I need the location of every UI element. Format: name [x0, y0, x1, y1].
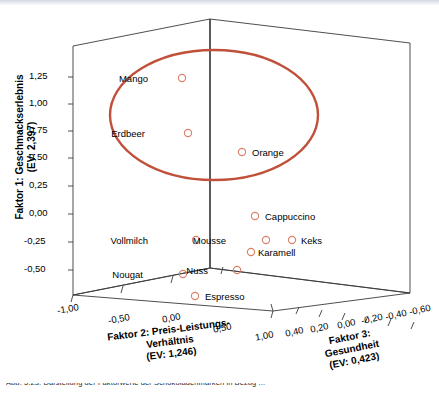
scatter-point-label: Mousse — [186, 235, 226, 246]
scatter-point-marker — [238, 148, 245, 155]
scatter-point-marker — [288, 236, 295, 243]
axis-frame — [73, 19, 410, 311]
figure-root: Faktor 1: Geschmackserlebnis (EV: 2,397)… — [0, 0, 439, 394]
figure-caption-strip: Abb. 5.23: Darstellung der Faktorwerte d… — [0, 381, 439, 394]
scatter-point-label: Vollmilch — [108, 235, 148, 246]
scatter-point-marker — [247, 248, 254, 255]
y-tick-label: 0,25 — [29, 179, 48, 190]
scatter-point-marker — [251, 212, 258, 219]
y-tick-label: 0,75 — [29, 124, 48, 135]
scatter-point-label: Orange — [252, 147, 284, 158]
cluster-highlight-ellipse — [110, 50, 318, 180]
y-tick-label: 1,00 — [29, 97, 48, 108]
y-tick-label: 1,25 — [29, 70, 48, 81]
figure-caption: Abb. 5.23: Darstellung der Faktorwerte d… — [6, 381, 265, 387]
scatter-point-marker — [191, 292, 198, 299]
y-tick-label: -0,50 — [24, 263, 46, 274]
y-axis-title: Faktor 1: Geschmackserlebnis (EV: 2,397) — [14, 32, 38, 262]
scatter-point-label: Karamell — [258, 247, 296, 258]
y-axis-ticks — [68, 77, 73, 270]
scatter-point-marker — [233, 266, 240, 273]
scatter-point-marker — [184, 129, 191, 136]
scatter-point-label: Cappuccino — [265, 211, 315, 222]
y-tick-label: -0,25 — [24, 235, 46, 246]
scatter-point-label: Keks — [301, 235, 322, 246]
scatter-point-label: Erdbeer — [105, 128, 145, 139]
scatter-point-marker — [178, 74, 185, 81]
y-tick-label: 0,00 — [29, 207, 48, 218]
scatter-point-label: Nougat — [103, 269, 143, 280]
scatter-point-label: Mango — [108, 73, 148, 84]
scatter-point-marker — [262, 236, 269, 243]
y-axis-title-line-1: Faktor 1: Geschmackserlebnis — [14, 32, 26, 262]
y-tick-label: 0,50 — [29, 151, 48, 162]
y-axis-title-line-2: (EV: 2,397) — [26, 32, 38, 262]
scatter-point-label: Nuss — [168, 265, 208, 276]
scatter-point-label: Espresso — [205, 291, 245, 302]
